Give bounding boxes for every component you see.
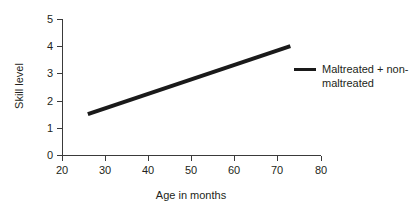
legend-line-swatch <box>294 68 316 71</box>
data-line-maltreated-plus-nonmaltreated <box>88 46 290 114</box>
legend-label-line-2: maltreated <box>322 77 374 89</box>
legend-label-line-1: Maltreated + non- <box>322 63 409 75</box>
legend-item-label: Maltreated + non- maltreated <box>322 62 414 90</box>
legend-item: Maltreated + non- maltreated <box>294 62 414 90</box>
x-axis-label: Age in months <box>62 188 320 202</box>
plot-area <box>0 0 416 214</box>
legend: Maltreated + non- maltreated <box>294 62 414 90</box>
line-chart-figure: Skill level 012345 20304050607080 Maltre… <box>0 0 416 214</box>
